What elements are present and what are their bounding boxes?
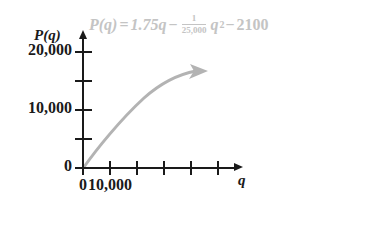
- x-tick-20000: [136, 161, 138, 175]
- y-tick-15000: [75, 80, 92, 82]
- profit-curve: [84, 71, 196, 167]
- y-tick-10000: [75, 109, 92, 111]
- y-tick-label-0: 0: [0, 157, 72, 175]
- y-tick-5000: [75, 138, 92, 140]
- x-tick-40000: [190, 161, 192, 175]
- y-axis-title: P(q): [34, 27, 61, 44]
- x-tick-0: [82, 161, 84, 175]
- x-axis-line: [82, 167, 236, 169]
- x-axis-title: q: [238, 172, 246, 189]
- y-tick-label-10000: 10,000: [0, 99, 72, 117]
- x-axis-arrow-icon: [234, 163, 243, 171]
- x-tick-label-10000: 10,000: [75, 176, 145, 194]
- profit-function-figure: P(q) = 1.75q − 1 25,000 q2 − 2100 20,000…: [0, 0, 367, 231]
- x-tick-10000: [109, 161, 111, 175]
- x-tick-50000: [217, 161, 219, 175]
- y-tick-20000: [75, 51, 92, 53]
- y-axis-arrow-icon: [79, 30, 87, 39]
- x-tick-30000: [163, 161, 165, 175]
- y-axis-line: [82, 38, 84, 170]
